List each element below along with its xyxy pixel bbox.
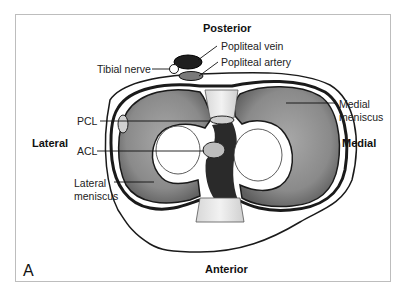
pcl-structure <box>210 116 234 124</box>
popliteal-vein-leader <box>198 46 217 60</box>
popliteal-artery-label: Popliteal artery <box>221 56 291 68</box>
posterior-label: Posterior <box>203 22 251 34</box>
tibial-nerve-shape <box>170 65 179 74</box>
acl-structure <box>203 142 225 158</box>
medial-tibial-plateau <box>234 129 282 181</box>
medial-meniscus-label-line1: Medial <box>339 98 370 110</box>
acl-label: ACL <box>77 145 97 157</box>
posterior-ligament-band <box>205 90 238 118</box>
popliteal-vein-label: Popliteal vein <box>221 40 283 52</box>
lateral-collateral <box>118 115 128 133</box>
lateral-meniscus-label-line2: meniscus <box>74 190 118 202</box>
anterior-ligament-band <box>196 198 244 222</box>
panel-letter: A <box>23 262 34 280</box>
pcl-label: PCL <box>77 115 97 127</box>
lateral-label: Lateral <box>32 137 68 149</box>
medial-label: Medial <box>342 137 376 149</box>
lateral-meniscus-label-line1: Lateral <box>74 177 106 189</box>
tibial-nerve-label: Tibial nerve <box>97 63 151 75</box>
medial-meniscus-label-line2: meniscus <box>339 111 383 123</box>
lateral-tibial-plateau <box>156 126 200 174</box>
anterior-label: Anterior <box>205 263 248 275</box>
